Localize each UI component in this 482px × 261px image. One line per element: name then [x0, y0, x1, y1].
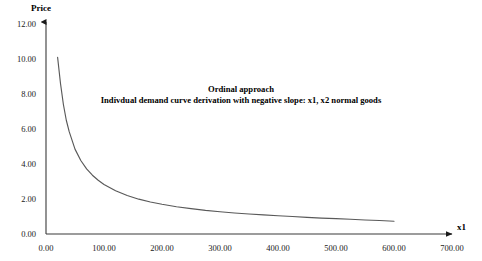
x-tick-label: 600.00	[372, 243, 416, 253]
x-tick-label: 100.00	[82, 243, 126, 253]
annotation-title: Ordinal approach	[0, 84, 482, 94]
y-tick-label: 12.00	[2, 19, 36, 29]
demand-curve-line	[58, 57, 394, 221]
x-tick-label: 500.00	[314, 243, 358, 253]
y-tick-label: 10.00	[2, 54, 36, 64]
y-tick-label: 0.00	[2, 229, 36, 239]
x-tick-label: 400.00	[256, 243, 300, 253]
y-axis-title: Price	[31, 3, 51, 13]
demand-curve-plot	[0, 0, 482, 261]
y-tick-label: 6.00	[2, 124, 36, 134]
y-tick-label: 4.00	[2, 159, 36, 169]
chart-figure: 12.00 10.00 8.00 6.00 4.00 2.00 0.00 0.0…	[0, 0, 482, 261]
annotation-subtitle: Indivdual demand curve derivation with n…	[0, 95, 482, 105]
x-tick-label: 0.00	[24, 243, 68, 253]
y-tick-label: 2.00	[2, 194, 36, 204]
x-tick-label: 300.00	[198, 243, 242, 253]
x-tick-label: 700.00	[430, 243, 474, 253]
x-tick-label: 200.00	[140, 243, 184, 253]
x-axis-title: x1	[457, 222, 466, 232]
